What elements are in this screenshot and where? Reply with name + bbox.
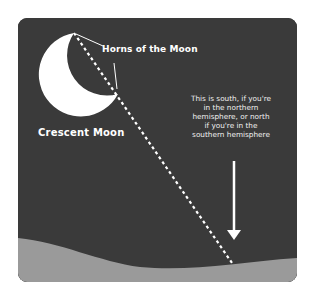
note-line: southern hemisphere	[180, 131, 282, 140]
direction-note: This is south, if you're in the northern…	[180, 95, 282, 140]
horns-label: Horns of the Moon	[102, 44, 198, 54]
crescent-moon-label: Crescent Moon	[38, 127, 125, 138]
diagram-card	[18, 18, 297, 282]
scene-graphic	[18, 18, 297, 282]
